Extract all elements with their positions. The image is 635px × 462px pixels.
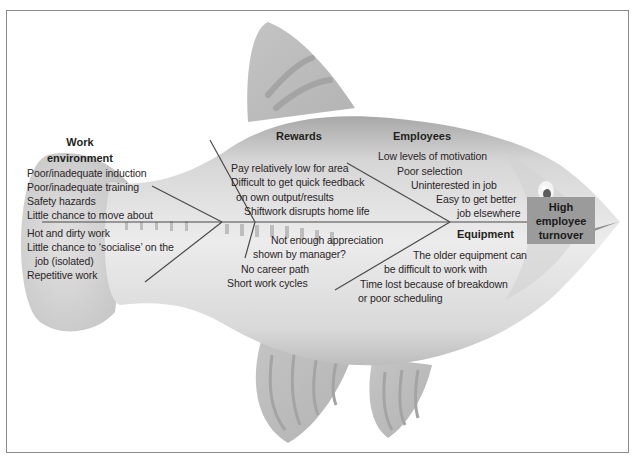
cause-item: Poor/inadequate training [27,180,139,195]
cause-item: job (isolated) [35,254,94,269]
cause-item: Repetitive work [27,268,97,283]
effect-label-line: High [549,200,573,214]
cause-item: on own output/results [236,190,334,205]
cause-item: Time lost because of breakdown [360,277,508,292]
dorsal-fin [247,22,355,122]
cause-item: Hot and dirty work [27,226,110,241]
cause-item: Low levels of motivation [378,149,487,164]
cause-item: Easy to get better [436,192,517,207]
category-label-line: Work [40,134,120,150]
cause-item: Poor selection [397,164,462,179]
cause-item: Shiftwork disrupts home life [244,204,370,219]
cause-item: Safety hazards [27,194,96,209]
cause-item: The older equipment can [413,248,527,263]
category-work-environment: Work environment [40,134,120,166]
cause-item: or poor scheduling [358,291,443,306]
cause-item: Uninterested in job [411,178,497,193]
cause-item: Pay relatively low for area [231,161,349,176]
cause-item: job elsewhere [457,206,521,221]
category-equipment: Equipment [457,226,514,242]
cause-item: be difficult to work with [384,262,487,277]
category-label-line: environment [40,150,120,166]
cause-item: Poor/inadequate induction [27,166,147,181]
category-rewards: Rewards [276,128,322,144]
cause-item: Difficult to get quick feedback [231,175,364,190]
cause-item: Little chance to move about [27,208,153,223]
category-employees: Employees [393,128,451,144]
effect-box: High employee turnover [527,197,595,244]
cause-item: shown by manager? [253,247,346,262]
effect-label-line: employee [536,214,587,228]
cause-item: Short work cycles [227,276,308,291]
cause-item: No career path [241,262,309,277]
cause-item: Not enough appreciation [271,233,383,248]
cause-item: Little chance to ‘socialise’ on the [27,240,174,255]
effect-label-line: turnover [539,228,584,242]
